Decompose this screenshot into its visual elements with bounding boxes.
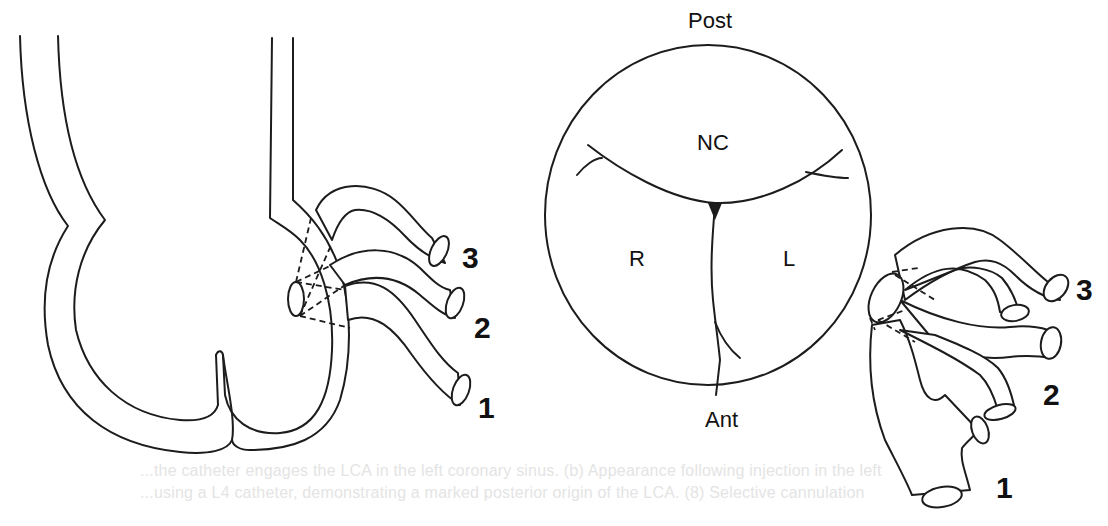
orientation-posterior: Post <box>688 8 732 33</box>
aorta-outer-wall <box>20 36 232 453</box>
branch-tube-3-upper <box>895 228 1060 300</box>
projection-line <box>300 316 350 328</box>
commissure-junction <box>708 203 722 220</box>
aorta-inner-wall <box>58 36 218 420</box>
figure: 3 2 1 Post Ant NC R L <box>0 0 1108 526</box>
tube-label-1: 1 <box>478 391 495 424</box>
branch-tube-3-upper-end <box>1039 270 1074 306</box>
commissure-right-left <box>712 205 720 395</box>
projection-line <box>300 243 332 316</box>
valve-leaflet-inner <box>223 355 233 440</box>
tube-label-2: 2 <box>474 311 491 344</box>
aortic-annulus <box>545 45 871 385</box>
right-panel: Post Ant NC R L 3 2 1 <box>545 8 1093 510</box>
commissure-branch-right <box>806 172 848 178</box>
tube-label-2: 2 <box>1043 378 1060 411</box>
cusp-left: L <box>783 246 795 271</box>
orientation-anterior: Ant <box>705 407 738 432</box>
tube-label-3: 3 <box>462 241 479 274</box>
tube-label-1: 1 <box>996 471 1013 504</box>
cusp-right: R <box>629 246 645 271</box>
branch-tube-2-lower-end <box>983 401 1018 423</box>
commissure-branch-left <box>577 158 602 175</box>
tube-label-3: 3 <box>1076 273 1093 306</box>
aorta-right-outer-wall <box>232 38 349 450</box>
valve-leaflet <box>216 38 332 433</box>
cusp-noncoronary: NC <box>697 130 729 155</box>
left-panel: 3 2 1 <box>20 36 495 453</box>
projection-line <box>296 265 332 282</box>
